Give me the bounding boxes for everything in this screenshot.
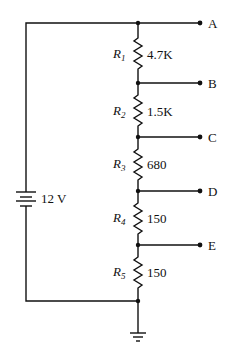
source-label: 12 V — [41, 191, 67, 206]
svg-text:4.7K: 4.7K — [147, 47, 173, 62]
battery-symbol — [16, 192, 36, 206]
terminal-b: B — [138, 76, 217, 91]
terminal-a: A — [138, 16, 218, 31]
svg-text:150: 150 — [147, 265, 167, 280]
resistor-r1-label: R1 4.7K — [112, 46, 173, 63]
svg-text:R3: R3 — [112, 156, 126, 173]
svg-text:150: 150 — [147, 211, 167, 226]
terminal-d: D — [138, 184, 217, 199]
resistor-r2-label: R2 1.5K — [112, 103, 173, 120]
svg-text:R2: R2 — [112, 103, 126, 120]
svg-text:D: D — [208, 184, 217, 199]
svg-text:680: 680 — [147, 157, 167, 172]
svg-text:R4: R4 — [112, 210, 126, 227]
terminal-e: E — [138, 238, 216, 253]
svg-text:1.5K: 1.5K — [147, 104, 173, 119]
circuit-diagram: 12 V A B C — [0, 0, 228, 354]
svg-text:B: B — [208, 76, 217, 91]
svg-text:R1: R1 — [112, 46, 125, 63]
svg-text:R5: R5 — [112, 264, 126, 281]
resistor-chain — [134, 23, 142, 333]
svg-text:C: C — [208, 130, 217, 145]
terminal-c: C — [138, 130, 217, 145]
svg-text:E: E — [208, 238, 216, 253]
ground-symbol — [130, 333, 146, 341]
svg-text:A: A — [208, 16, 218, 31]
